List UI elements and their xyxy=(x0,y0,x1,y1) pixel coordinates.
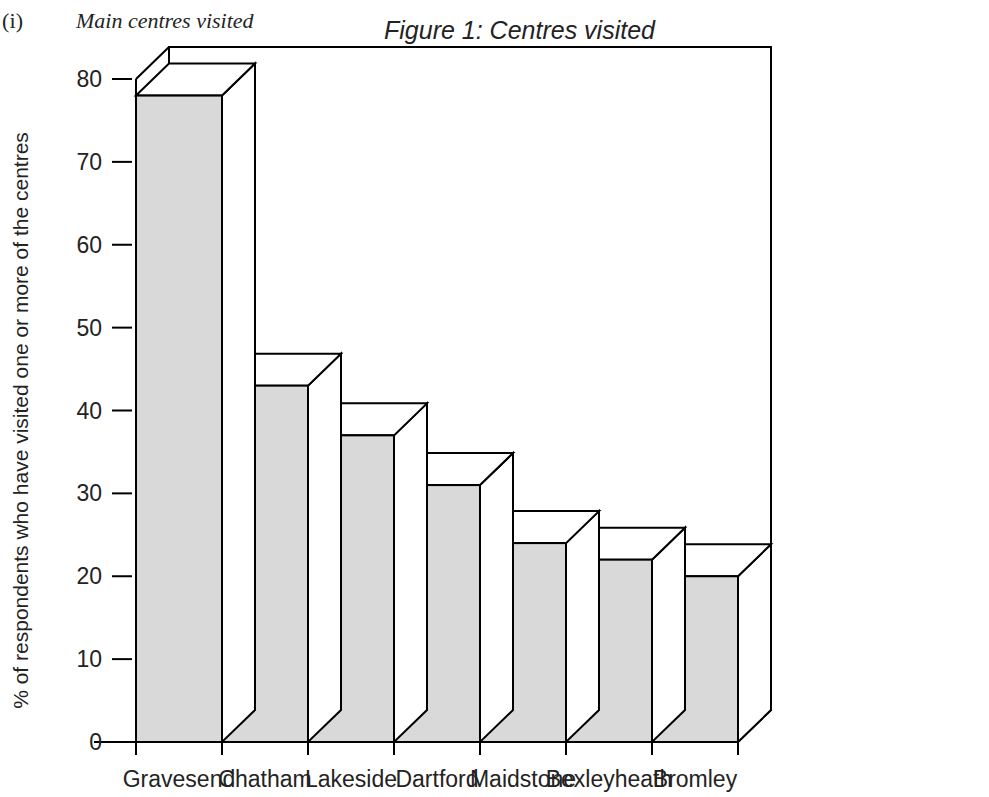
y-tick-label: 10 xyxy=(76,646,102,672)
y-tick-label: 0 xyxy=(89,729,102,755)
bar-chart: 01020304050607080 % of respondents who h… xyxy=(0,0,989,797)
y-tick-label: 50 xyxy=(76,315,102,341)
x-axis-labels: GravesendChathamLakesideDartfordMaidston… xyxy=(123,766,738,792)
x-tick-label-dartford: Dartford xyxy=(395,766,478,792)
figure-page: (i) Main centres visited Figure 1: Centr… xyxy=(0,0,989,797)
y-tick-label: 20 xyxy=(76,563,102,589)
y-tick-label: 80 xyxy=(76,66,102,92)
y-tick-label: 60 xyxy=(76,232,102,258)
y-axis-label: % of respondents who have visited one or… xyxy=(9,132,32,709)
y-tick-label: 30 xyxy=(76,480,102,506)
y-axis-title: % of respondents who have visited one or… xyxy=(9,132,32,709)
y-tick-label: 40 xyxy=(76,398,102,424)
y-tick-label: 70 xyxy=(76,149,102,175)
bar-gravesend xyxy=(136,64,255,742)
x-tick-label-lakeside: Lakeside xyxy=(305,766,397,792)
x-tick-label-bromley: Bromley xyxy=(653,766,738,792)
x-tick-label-chatham: Chatham xyxy=(218,766,311,792)
